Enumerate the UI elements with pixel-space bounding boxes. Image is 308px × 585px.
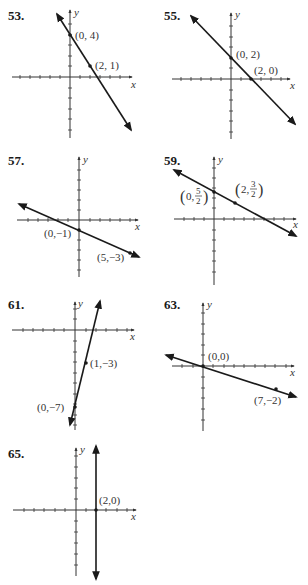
point-63-b [274,387,278,391]
x-axis-label-53: x [130,78,136,90]
y-axis-label-63: y [206,298,212,310]
line-55 [191,16,295,124]
problem-number-57: 57. [8,153,24,169]
y-axis-label-53: y [73,6,79,18]
point-label-63-b: (7,−2) [254,394,282,407]
problem-number-65: 65. [8,446,24,462]
x-axis-label-65: x [130,510,136,522]
point-label-55-b: (2, 0) [254,64,278,77]
point-label-59-a: ( 0, 5 2 ) [180,186,208,206]
y-axis-label-55: y [234,8,240,20]
y-axis-label-59: y [217,153,223,165]
point-label-65-a: (2,0) [99,494,120,507]
point-label-57-b: (5,−3) [97,251,125,264]
x-axis-label-57: x [134,220,140,232]
point-61-b [73,405,77,409]
svg-text:2: 2 [196,196,201,206]
x-axis-label-63: x [289,366,295,378]
point-label-53-b: (2, 1) [95,59,119,72]
y-axis-label-57: y [82,153,88,165]
point-label-59-b: ( 2, 3 2 ) [235,179,263,199]
point-label-55-a: (0, 2) [236,48,260,61]
svg-text:): ) [203,188,208,206]
point-label-61-a: (1,−3) [90,357,118,370]
point-53-a [68,33,72,37]
x-axis-label-55: x [289,79,295,91]
x-axis-label-61: x [129,330,135,342]
x-axis-label-59: x [292,218,298,230]
svg-text:(: ( [235,181,240,199]
problem-number-63: 63. [164,297,180,313]
svg-text:0,: 0, [186,190,195,202]
axes-59 [174,157,296,285]
point-55-b [249,77,253,81]
svg-text:2,: 2, [241,183,250,195]
axes-53 [12,10,132,138]
point-53-b [88,64,92,68]
point-59-b [233,201,237,205]
point-65-a [94,508,98,512]
point-label-57-a: (0,−1) [44,227,72,240]
point-label-61-b: (0,−7) [37,401,65,414]
point-63-a [201,364,205,368]
graph-53: x y (0, 4) (2, 1) x y (0, 2) (2, 0) x y [0,0,308,585]
point-label-63-a: (0,0) [208,350,229,363]
problem-number-55: 55. [164,8,180,24]
svg-text:2: 2 [251,189,256,199]
y-axis-label-65: y [79,443,85,455]
svg-text:3: 3 [251,179,256,189]
svg-text:5: 5 [196,186,201,196]
point-label-53-a: (0, 4) [75,29,99,42]
point-59-a [212,190,216,194]
axes-55 [172,13,290,139]
y-axis-label-61: y [77,297,83,309]
point-55-a [229,56,233,60]
problem-number-59: 59. [164,153,180,169]
axes-63 [172,303,294,431]
point-61-a [84,361,88,365]
svg-text:): ) [258,181,263,199]
problem-number-61: 61. [8,297,24,313]
axes-65 [13,448,136,576]
point-57-a [77,228,81,232]
point-57-b [128,251,132,255]
svg-text:(: ( [180,188,185,206]
